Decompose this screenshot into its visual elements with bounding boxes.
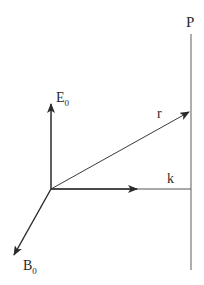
e-field-label-main: E [56, 90, 65, 105]
b-field-arrow-icon [14, 189, 51, 255]
wave-vector-diagram: P E0 r k B0 [0, 0, 204, 285]
b-field-label-main: B [23, 258, 32, 273]
b-field-label-subscript: 0 [32, 266, 37, 276]
e-field-label-subscript: 0 [65, 98, 70, 108]
e-field-vector: E0 [51, 90, 70, 189]
r-label: r [157, 106, 162, 121]
b-field-vector: B0 [14, 189, 51, 276]
b-field-label: B0 [23, 258, 37, 276]
k-vector: k [51, 171, 191, 189]
plane-label: P [186, 14, 194, 30]
plane-p: P [186, 14, 194, 270]
e-field-label: E0 [56, 90, 70, 108]
k-label: k [167, 171, 174, 186]
